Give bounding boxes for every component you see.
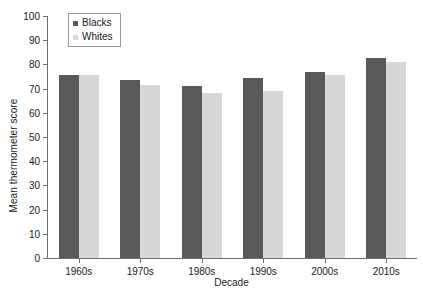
plot-area: 1009080706050403020100 1960s1970s1980s19… — [47, 16, 417, 259]
y-axis-tick: 90 — [43, 40, 48, 41]
x-axis-tick — [140, 258, 141, 263]
legend-entry-whites: Whites — [73, 31, 113, 43]
bar-1970s-blacks — [120, 80, 140, 258]
bar-1990s-blacks — [243, 78, 263, 258]
y-axis-tick: 60 — [43, 113, 48, 114]
y-axis-tick-label: 30 — [29, 179, 40, 192]
y-axis-tick: 10 — [43, 234, 48, 235]
y-axis-tick: 50 — [43, 137, 48, 138]
y-axis-tick: 20 — [43, 210, 48, 211]
bar-2000s-whites — [325, 75, 345, 258]
y-axis-tick-label: 0 — [34, 252, 40, 265]
y-axis-title-label: Mean thermometer score — [8, 99, 19, 213]
bar-2010s-blacks — [366, 58, 386, 258]
y-axis-title: Mean thermometer score — [4, 0, 24, 166]
x-axis-tick — [263, 258, 264, 263]
y-axis-tick-label: 20 — [29, 204, 40, 217]
y-axis-tick: 80 — [43, 64, 48, 65]
bar-1960s-blacks — [59, 75, 79, 258]
bar-1970s-whites — [140, 85, 160, 258]
y-axis-tick-label: 70 — [29, 83, 40, 96]
chart-legend: BlacksWhites — [68, 13, 121, 47]
y-axis-tick: 100 — [43, 16, 48, 17]
bar-2000s-blacks — [305, 72, 325, 258]
y-axis-tick-label: 40 — [29, 155, 40, 168]
bar-1980s-whites — [202, 93, 222, 258]
y-axis-tick: 40 — [43, 161, 48, 162]
legend-entry-blacks: Blacks — [73, 17, 113, 29]
legend-swatch-icon — [73, 21, 78, 26]
y-axis-tick-label: 90 — [29, 34, 40, 47]
bar-1990s-whites — [263, 91, 283, 258]
y-axis-tick: 70 — [43, 89, 48, 90]
y-axis-tick-label: 80 — [29, 58, 40, 71]
y-axis-tick-label: 10 — [29, 228, 40, 241]
x-axis-tick — [79, 258, 80, 263]
bar-1960s-whites — [79, 75, 99, 258]
bar-chart: Mean thermometer score 10090807060504030… — [0, 0, 423, 293]
y-axis-tick: 0 — [43, 258, 48, 259]
bar-1980s-blacks — [182, 86, 202, 258]
legend-swatch-icon — [73, 35, 78, 40]
y-axis-tick: 30 — [43, 185, 48, 186]
x-axis-tick — [386, 258, 387, 263]
y-axis-tick-label: 100 — [23, 10, 40, 23]
legend-label: Whites — [82, 31, 113, 43]
legend-label: Blacks — [82, 17, 111, 29]
bar-2010s-whites — [386, 62, 406, 258]
y-axis-tick-label: 60 — [29, 107, 40, 120]
x-axis-tick — [202, 258, 203, 263]
x-axis-title: Decade — [47, 277, 416, 288]
x-axis-tick — [325, 258, 326, 263]
y-axis-tick-label: 50 — [29, 131, 40, 144]
